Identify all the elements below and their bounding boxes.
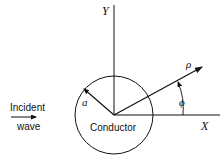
incident-label-line2: wave [16, 121, 41, 132]
angle-label: ϕ [179, 96, 185, 108]
conductor-scattering-diagram: Y X a ρ ϕ Conductor Incident wave [0, 0, 224, 166]
radius-arrow [84, 89, 114, 115]
conductor-label: Conductor [90, 122, 137, 133]
incident-label-line1: Incident [10, 102, 45, 113]
radius-label: a [82, 96, 88, 108]
rho-arrow [114, 67, 202, 115]
rho-label: ρ [185, 58, 191, 70]
y-axis-label: Y [102, 4, 110, 18]
x-axis-label: X [200, 119, 209, 133]
